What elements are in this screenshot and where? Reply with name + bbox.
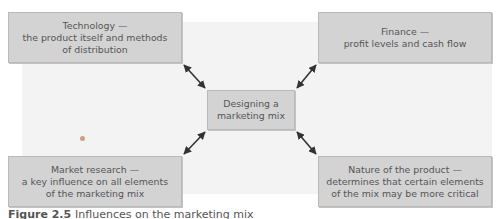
double-arrow-icon [184, 132, 205, 154]
figure-label: Figure 2.5 [8, 208, 71, 219]
double-arrow-icon [297, 65, 316, 88]
double-arrow-icon [297, 132, 316, 154]
figure-caption: Figure 2.5 Influences on the marketing m… [8, 208, 254, 219]
figure-caption-text: Influences on the marketing mix [75, 208, 253, 219]
double-arrow-icon [184, 65, 205, 88]
decorative-dot [80, 136, 85, 141]
connector-arrows [0, 0, 501, 219]
